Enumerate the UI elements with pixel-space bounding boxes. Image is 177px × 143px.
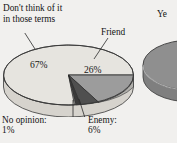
leader-line-dont-think	[21, 33, 35, 49]
pie-chart-left	[2, 33, 135, 117]
pie-chart-right-cropped	[139, 31, 177, 111]
label-enemy-value: 6%	[88, 125, 100, 136]
label-friend: Friend	[101, 27, 125, 38]
label-no-opinion-value: 1%	[2, 125, 14, 136]
label-dont-think-line1: Don't think of it	[3, 3, 62, 14]
label-yes-partial: Ye	[157, 9, 167, 20]
label-dont-think-line2: in those terms	[3, 14, 55, 25]
slice-value-friend: 26%	[84, 64, 102, 75]
pie-top-face	[4, 45, 134, 105]
figure-canvas: Don't think of it in those terms Friend …	[0, 0, 177, 143]
label-enemy: Enemy:	[88, 115, 117, 126]
label-no-opinion: No opinion:	[2, 115, 47, 126]
slice-value-dont-think: 67%	[30, 59, 48, 70]
